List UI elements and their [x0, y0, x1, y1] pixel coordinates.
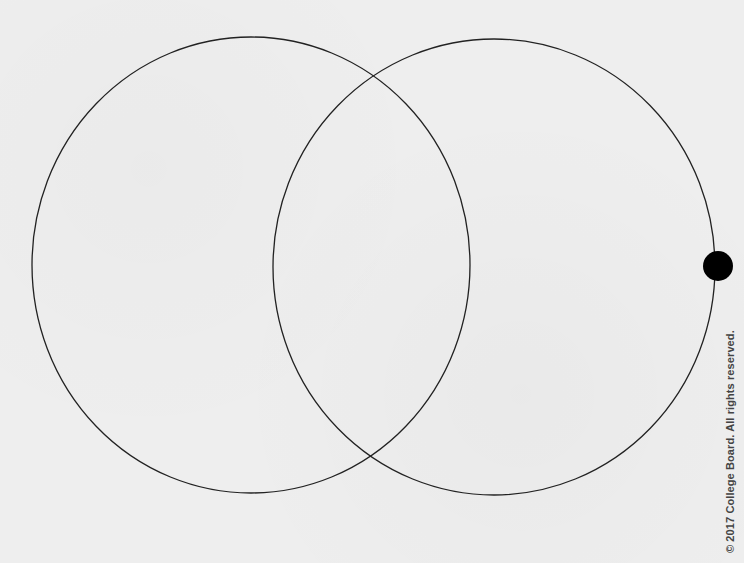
left-circle — [32, 37, 470, 493]
right-circle — [273, 39, 715, 495]
point-marker — [703, 251, 733, 281]
venn-diagram — [0, 0, 744, 563]
copyright-notice: © 2017 College Board. All rights reserve… — [724, 330, 736, 553]
